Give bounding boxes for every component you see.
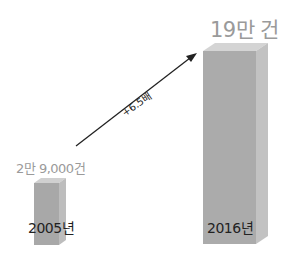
year-label-2016: 2016년 xyxy=(207,217,253,237)
value-label-2016: 19만 건 xyxy=(210,13,279,43)
year-label-2005: 2005년 xyxy=(28,217,74,237)
bar-2016 xyxy=(203,43,268,244)
value-label-2005: 2만 9,000건 xyxy=(16,158,85,177)
